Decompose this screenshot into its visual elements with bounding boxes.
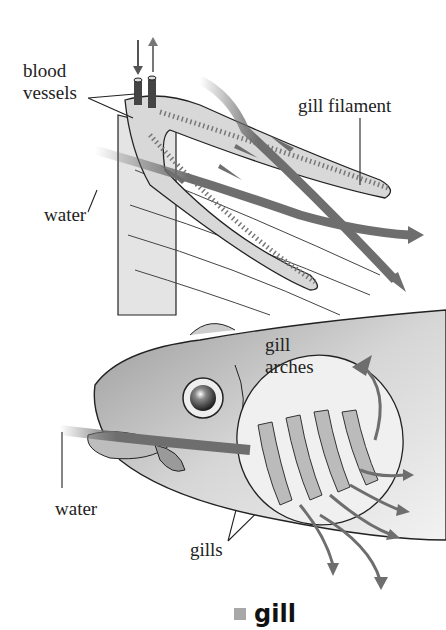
caption-marker-icon [234, 608, 246, 620]
label-gill-arches-line1: gill [265, 334, 290, 355]
label-gill-filament: gill filament [298, 95, 391, 116]
label-water-bottom: water [55, 498, 97, 519]
label-gills: gills [190, 539, 223, 560]
caption-text: gill [254, 601, 296, 627]
label-water-top: water [44, 204, 86, 225]
label-blood-vessels-line2: vessels [23, 82, 77, 103]
label-gill-arches-line2: arches [265, 356, 314, 377]
label-blood-vessels-line1: blood [23, 60, 66, 81]
fish-head [60, 310, 446, 544]
caption: gill [234, 601, 296, 627]
